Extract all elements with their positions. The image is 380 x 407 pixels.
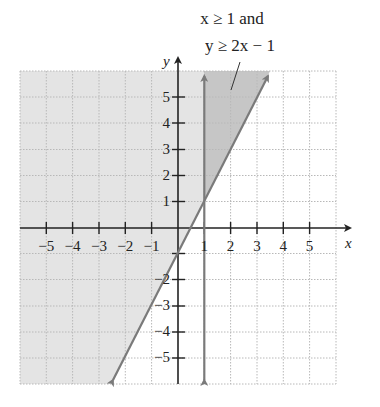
x-axis-label: x <box>344 235 352 251</box>
svg-text:1: 1 <box>201 238 209 254</box>
graph-canvas: x ≥ 1 and y ≥ 2x − 1 y x −5 −4 −3 −2 −1 … <box>0 0 380 407</box>
svg-text:−3: −3 <box>91 238 107 254</box>
svg-text:−5: −5 <box>38 238 54 254</box>
svg-text:4: 4 <box>280 238 288 254</box>
inequality-graph: x ≥ 1 and y ≥ 2x − 1 y x −5 −4 −3 −2 −1 … <box>0 0 380 407</box>
svg-text:−4: −4 <box>154 323 170 339</box>
svg-text:2: 2 <box>163 167 171 183</box>
title-line-1: x ≥ 1 and <box>200 9 264 28</box>
svg-text:3: 3 <box>253 238 261 254</box>
svg-text:−5: −5 <box>154 349 170 365</box>
svg-text:−4: −4 <box>65 238 81 254</box>
svg-text:2: 2 <box>227 238 235 254</box>
svg-text:−3: −3 <box>154 297 170 313</box>
y-axis-label: y <box>161 53 170 69</box>
title-line-2: y ≥ 2x − 1 <box>205 36 275 55</box>
svg-text:1: 1 <box>163 193 171 209</box>
svg-text:5: 5 <box>163 89 171 105</box>
svg-text:−2: −2 <box>117 238 133 254</box>
svg-text:5: 5 <box>306 238 314 254</box>
svg-text:−2: −2 <box>154 271 170 287</box>
svg-text:3: 3 <box>163 141 171 157</box>
svg-text:4: 4 <box>163 115 171 131</box>
svg-text:−1: −1 <box>144 238 160 254</box>
